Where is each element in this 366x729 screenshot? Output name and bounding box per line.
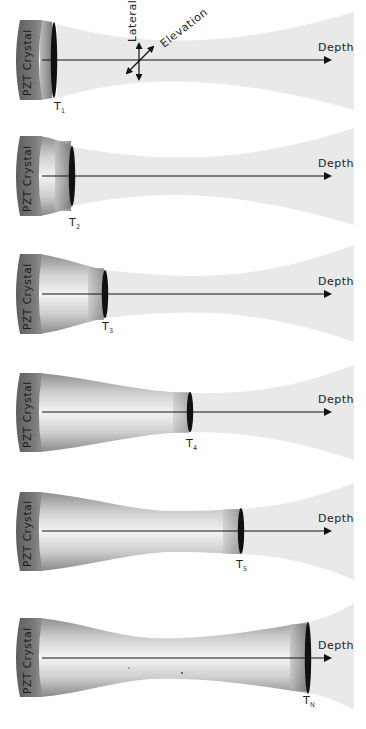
depth-label: Depth: [318, 157, 354, 170]
focus-label-t2: T: [68, 216, 76, 229]
depth-label: Depth: [318, 41, 354, 54]
focus-label-t1: T: [53, 100, 61, 113]
crystal-label: PZT Crystal: [21, 29, 33, 96]
focus-sub-t3: 3: [109, 327, 113, 335]
panel-tn: PZT Crystal Depth T N: [16, 603, 354, 710]
focus-sub-tn: N: [310, 701, 315, 709]
depth-label: Depth: [318, 393, 354, 406]
far-beam: [57, 12, 354, 110]
crystal-label: PZT Crystal: [21, 263, 33, 330]
depth-label: Depth: [318, 639, 354, 652]
focus-sub-t2: 2: [76, 223, 80, 231]
lateral-label: Lateral: [126, 0, 139, 42]
crystal-label: PZT Crystal: [21, 381, 33, 448]
panel-t1: PZT Crystal Depth T 1 Lateral Elevation: [16, 0, 354, 115]
crystal-label: PZT Crystal: [21, 145, 33, 212]
speck: [128, 667, 130, 669]
panel-t4: PZT Crystal Depth T 4: [16, 365, 354, 460]
dynamic-focusing-diagram: PZT Crystal Depth T 1 Lateral Elevation …: [0, 0, 366, 729]
depth-label: Depth: [318, 512, 354, 525]
crystal-label: PZT Crystal: [21, 627, 33, 694]
focus-label-t3: T: [101, 320, 109, 333]
focus-label-t4: T: [185, 437, 193, 450]
focus-label-tn: T: [302, 694, 310, 707]
panel-t3: PZT Crystal Depth T 3: [16, 245, 354, 342]
far-beam: [308, 603, 354, 710]
focus-sub-t1: 1: [61, 107, 65, 115]
depth-label: Depth: [318, 275, 354, 288]
focus-sub-t5: 5: [243, 565, 247, 573]
crystal-label: PZT Crystal: [21, 500, 33, 567]
panel-t2: PZT Crystal Depth T 2: [16, 128, 354, 231]
focus-label-t5: T: [235, 558, 243, 571]
panel-t5: PZT Crystal Depth T 5: [16, 483, 354, 580]
focus-sub-t4: 4: [193, 444, 197, 452]
speck: [181, 672, 183, 674]
